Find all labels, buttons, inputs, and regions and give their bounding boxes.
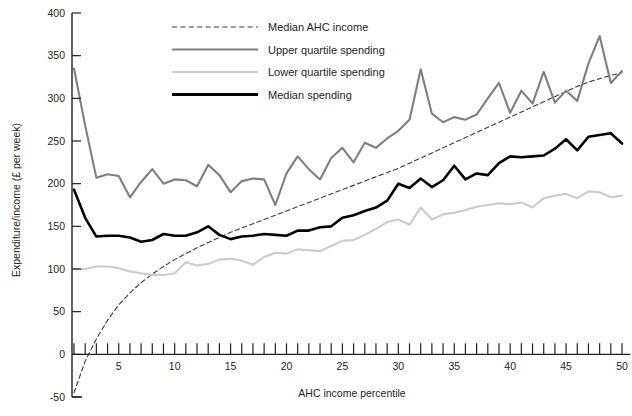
x-tick-label: 45: [560, 360, 572, 372]
x-tick-label: 35: [448, 360, 460, 372]
x-tick-label: 40: [504, 360, 516, 372]
chart-container: -50050100150200250300350400 510152025303…: [0, 0, 632, 416]
legend-label-1: Upper quartile spending: [268, 44, 385, 56]
y-tick-label: 300: [47, 92, 65, 104]
y-axis-title: Expenditure/income (£ per week): [10, 123, 22, 277]
x-tick-label: 30: [392, 360, 404, 372]
series-line-3: [74, 133, 622, 241]
series-line-1: [74, 36, 622, 205]
y-tick-labels: -50050100150200250300350400: [47, 7, 65, 403]
x-tick-labels: 5101520253035404550: [116, 360, 628, 372]
x-tick-label: 5: [116, 360, 122, 372]
x-tick-label: 20: [281, 360, 293, 372]
line-chart: -50050100150200250300350400 510152025303…: [0, 0, 632, 416]
legend-label-3: Median spending: [268, 89, 352, 101]
y-tick-label: 200: [47, 177, 65, 189]
y-tick-label: -50: [50, 391, 65, 403]
x-tick-label: 15: [225, 360, 237, 372]
y-tick-label: 150: [47, 220, 65, 232]
y-tick-label: 350: [47, 49, 65, 61]
y-tick-label: 50: [53, 305, 65, 317]
chart-legend: Median AHC incomeUpper quartile spending…: [172, 21, 385, 101]
series-line-0: [74, 73, 622, 393]
series-line-2: [74, 191, 622, 275]
x-tick-label: 10: [169, 360, 181, 372]
y-tick-label: 400: [47, 7, 65, 19]
x-tick-label: 50: [616, 360, 628, 372]
y-tick-label: 250: [47, 135, 65, 147]
x-tick-label: 25: [337, 360, 349, 372]
x-axis-title: AHC income percentile: [298, 387, 406, 399]
legend-label-2: Lower quartile spending: [268, 66, 385, 78]
y-tick-label: 100: [47, 263, 65, 275]
legend-label-0: Median AHC income: [268, 21, 368, 33]
y-tick-label: 0: [59, 348, 65, 360]
